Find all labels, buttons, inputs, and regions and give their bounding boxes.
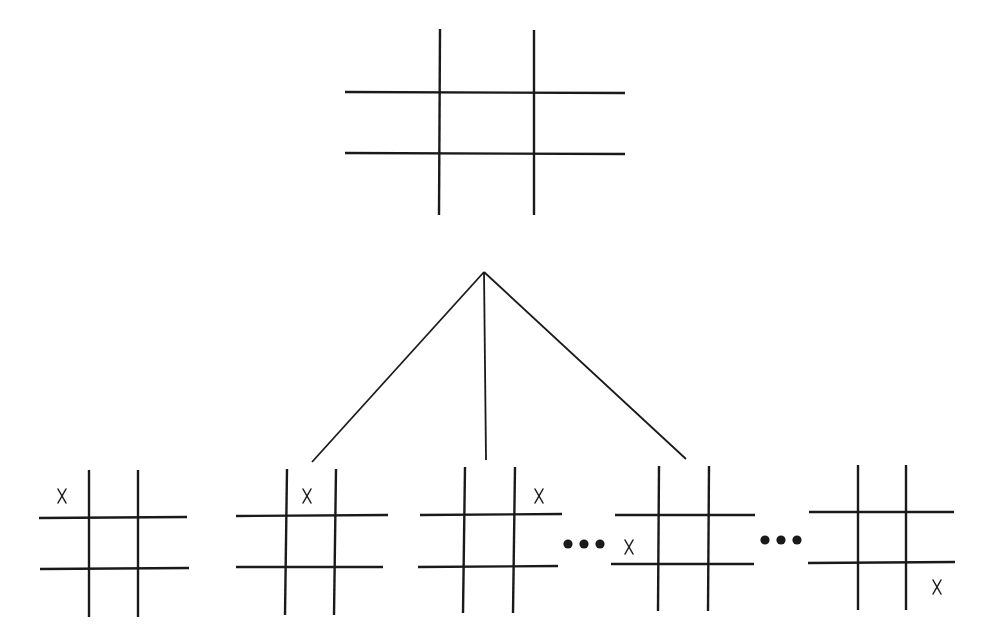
child-board-x-middle-left: X: [611, 466, 755, 611]
game-tree-diagram: Tic-tac-toe game tree: first move by X X…: [0, 0, 996, 638]
ellipsis-dot: [563, 539, 572, 548]
x-mark: X: [933, 580, 941, 594]
grid-vertical-line: [439, 29, 440, 215]
ellipsis-1: [563, 539, 604, 548]
x-mark: X: [625, 540, 633, 554]
grid-horizontal-line: [420, 514, 562, 515]
grid-horizontal-line: [345, 92, 625, 93]
child-board-x-top-left: X: [39, 470, 189, 617]
grid-horizontal-line: [236, 515, 388, 516]
grid-vertical-line: [285, 469, 287, 615]
child-boards: XXXXX: [39, 465, 955, 617]
ellipsis-dot: [760, 535, 769, 544]
grid-vertical-line: [334, 469, 336, 615]
grid-vertical-line: [513, 467, 515, 613]
tree-edge: [312, 272, 484, 462]
child-board-x-top-right: X: [418, 467, 562, 613]
ellipsis-2: [760, 535, 801, 544]
x-mark: X: [58, 489, 66, 503]
ellipsis-dot: [579, 539, 588, 548]
grid-horizontal-line: [40, 568, 189, 569]
tree-edge: [484, 272, 486, 460]
grid-vertical-line: [708, 466, 709, 611]
grid-vertical-line: [658, 466, 659, 611]
child-board-x-bottom-right: X: [808, 465, 955, 610]
grid-horizontal-line: [808, 562, 955, 563]
grid-horizontal-line: [345, 153, 625, 154]
grid-horizontal-line: [39, 517, 187, 518]
diagram-canvas: XXXXX: [0, 0, 996, 638]
child-board-x-top-middle: X: [236, 469, 388, 615]
grid-horizontal-line: [418, 566, 558, 567]
x-mark: X: [535, 489, 543, 503]
grid-vertical-line: [463, 467, 465, 613]
ellipsis-dot: [595, 539, 604, 548]
ellipses: [563, 535, 801, 548]
root-board-grid: [345, 29, 625, 215]
x-mark: X: [303, 489, 311, 503]
tree-edge: [484, 272, 686, 459]
ellipsis-dot: [792, 535, 801, 544]
root-empty-board: [345, 29, 625, 215]
tree-branches: [312, 272, 686, 462]
ellipsis-dot: [776, 535, 785, 544]
